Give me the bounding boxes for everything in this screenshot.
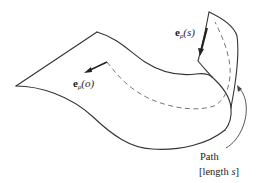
surface-top-edge (97, 32, 212, 77)
path-label-line2: [length s] (199, 166, 239, 177)
surface (16, 12, 238, 149)
end-vector-shaft (201, 28, 207, 51)
end-vector-label: eρ(s) (175, 26, 195, 40)
path-pointer-curve (226, 88, 246, 148)
end-vector-arrow (198, 28, 207, 56)
curved-surface-diagram: eρ(s) eρ(o) Path [length s] (0, 0, 261, 183)
surface-bottom-edge (16, 86, 225, 149)
start-vector-label: eρ(o) (73, 77, 94, 91)
path-dashed-curve (107, 22, 230, 109)
path-pointer-arrow (226, 85, 246, 148)
surface-flap-left-edge (198, 12, 212, 77)
start-vector-arrowhead (84, 67, 92, 73)
end-vector-arrowhead (198, 48, 204, 56)
surface-flap-right-edge (209, 12, 238, 108)
start-vector-arrow (84, 62, 107, 73)
path-label-line1: Path (200, 151, 219, 162)
